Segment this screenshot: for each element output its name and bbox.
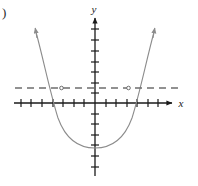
intersection-point-right [127, 86, 131, 90]
figure-item-label: ) [2, 5, 6, 20]
x-axis-label: x [178, 97, 184, 109]
figure-container: x y ) [0, 0, 198, 186]
y-axis-label: y [91, 3, 97, 15]
intersection-point-left [60, 86, 64, 90]
y-axis-group [91, 18, 99, 176]
graph-canvas: x y ) [0, 0, 198, 186]
x-axis-group [14, 99, 172, 107]
